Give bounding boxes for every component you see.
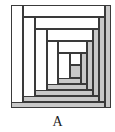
- quilt-strip-r4-right: [87, 41, 93, 90]
- quilt-strip-r2-right: [99, 17, 105, 102]
- quilt-strip-r3-bottom: [35, 90, 93, 96]
- quilt-strip-r3-top: [47, 29, 93, 41]
- quilt-strip-r5-top: [70, 53, 81, 65]
- figure-label: A: [0, 114, 115, 130]
- quilt-strip-r4-top: [58, 41, 87, 53]
- quilt-strip-r1-bottom: [11, 102, 105, 108]
- quilt-strip-r4-left: [47, 41, 58, 90]
- quilt-strip-r3-right: [93, 29, 99, 96]
- quilt-strip-r3-left: [35, 29, 47, 96]
- quilt-strip-r2-bottom: [23, 96, 99, 102]
- quilt-strip-r5-bottom: [58, 78, 81, 84]
- quilt-strip-r5-right: [81, 53, 87, 84]
- log-cabin-diagram: [0, 0, 115, 132]
- quilt-strip-r2-top: [35, 17, 99, 29]
- quilt-strip-r1-top: [23, 5, 105, 17]
- quilt-strip-r2-left: [23, 17, 35, 102]
- quilt-strip-r1-right: [105, 5, 111, 108]
- quilt-strip-r1-left: [11, 5, 23, 108]
- quilt-strip-center: [70, 65, 81, 78]
- quilt-strip-r4-bottom: [47, 84, 87, 90]
